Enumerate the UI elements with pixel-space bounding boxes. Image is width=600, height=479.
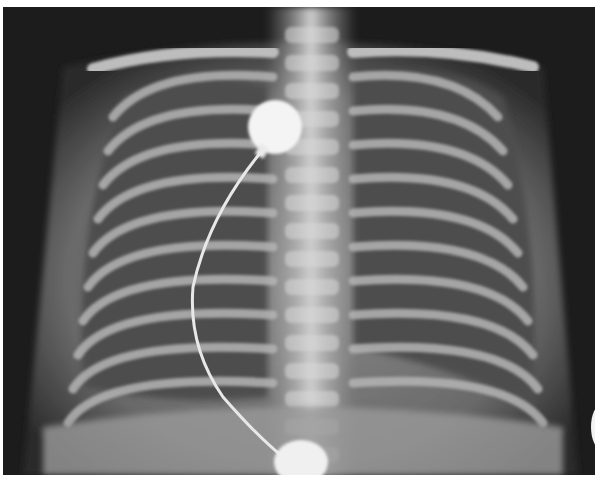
vertebra (285, 167, 339, 183)
vertebra (285, 27, 339, 43)
vertebra (285, 335, 339, 351)
vertebra (285, 83, 339, 99)
vertebra (285, 391, 339, 407)
vertebra (285, 223, 339, 239)
vertebra (285, 363, 339, 379)
vertebra (285, 55, 339, 71)
vertebra (285, 251, 339, 267)
vertebra (285, 279, 339, 295)
vertebra (285, 307, 339, 323)
xray-drawing (3, 7, 595, 475)
vertebra (285, 195, 339, 211)
xray-image (3, 7, 595, 475)
